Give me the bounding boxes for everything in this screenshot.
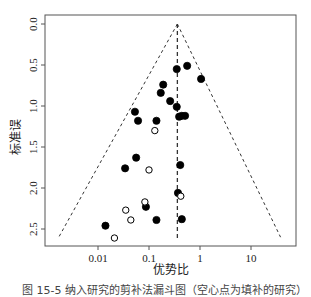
x-axis-title: 优势比 [153,263,189,277]
study-point-filled [167,97,174,104]
study-point-open [111,235,117,241]
study-point-filled [133,154,140,161]
study-point-open [152,127,158,133]
study-point-open [146,167,152,173]
study-point-filled [157,89,164,96]
funnel-right-line [177,24,280,237]
y-tick-label: 2.0 [27,181,39,195]
x-tick-label: 1 [197,252,203,264]
data-points [102,62,205,241]
funnel-left-line [59,24,178,237]
study-point-filled [173,66,180,73]
y-axis-title: 标准误 [9,119,23,155]
y-tick-label: 2.5 [27,222,39,236]
study-point-filled [122,165,129,172]
y-tick-label: 0.5 [27,58,39,72]
study-point-filled [173,103,180,110]
funnel-lines [59,24,281,240]
study-point-filled [153,216,160,223]
y-tick-label: 0.0 [27,17,39,31]
plot-frame [45,15,296,246]
study-point-filled [102,222,109,229]
study-point-open [142,199,148,205]
study-point-open [128,217,134,223]
y-tick-label: 1.0 [27,99,39,113]
study-point-filled [153,117,160,124]
study-point-filled [160,81,167,88]
x-tick-label: 0.01 [88,252,107,264]
study-point-filled [134,117,141,124]
study-point-open [178,193,184,199]
y-axis: 0.00.51.01.52.02.5 [27,17,45,236]
study-point-filled [181,112,188,119]
study-point-filled [177,161,184,168]
x-tick-label: 10 [246,252,258,264]
figure-caption: 图 15-5 纳入研究的剪补法漏斗图（空心点为填补的研究） [22,281,307,297]
study-point-filled [197,75,204,82]
y-tick-label: 1.5 [27,140,39,154]
study-point-filled [178,216,185,223]
study-point-filled [184,62,191,69]
study-point-open [123,207,129,213]
study-point-filled [131,108,138,115]
x-axis: 0.010.1110 [88,246,257,264]
